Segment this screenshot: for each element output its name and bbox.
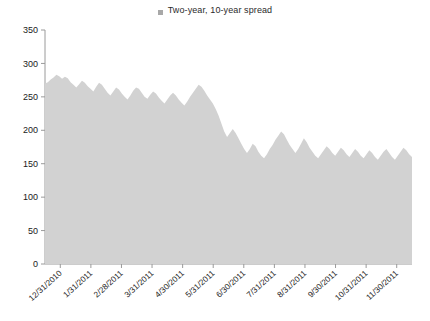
y-axis-tick-label: 50	[28, 226, 38, 236]
y-axis-group: 050100150200250300350	[23, 25, 45, 269]
x-axis-tick-label: 10/31/2011	[333, 269, 369, 303]
x-axis-tick-label: 6/30/2011	[214, 269, 247, 300]
x-axis-tick-label: 12/31/2010	[27, 269, 64, 303]
y-axis-tick-label: 200	[23, 125, 38, 135]
x-axis-tick-label: 3/31/2011	[123, 269, 156, 300]
x-axis-tick-label: 8/31/2011	[276, 269, 309, 300]
y-axis-tick-label: 300	[23, 59, 38, 69]
y-axis-tick-label: 150	[23, 159, 38, 169]
y-axis-tick-label: 100	[23, 192, 38, 202]
y-axis-tick-label: 350	[23, 25, 38, 35]
x-axis-tick-label: 4/30/2011	[153, 269, 186, 300]
x-axis-tick-label: 11/30/2011	[364, 269, 400, 303]
x-axis-group: 12/31/20101/31/20112/28/20113/31/20114/3…	[27, 264, 412, 303]
x-axis-tick-label: 1/31/2011	[62, 269, 95, 300]
x-axis-tick-label: 5/31/2011	[184, 269, 217, 300]
x-axis-tick-label: 7/31/2011	[245, 269, 278, 300]
chart-container: Two-year, 10-year spread 050100150200250…	[0, 0, 430, 321]
series-area-two-year-10-year-spread	[45, 75, 412, 264]
x-axis-tick-label: 2/28/2011	[92, 269, 125, 300]
y-axis-tick-label: 250	[23, 92, 38, 102]
y-axis-tick-label: 0	[33, 259, 38, 269]
chart-plot-area: 050100150200250300350 12/31/20101/31/201…	[0, 0, 430, 321]
series-group	[45, 75, 412, 264]
